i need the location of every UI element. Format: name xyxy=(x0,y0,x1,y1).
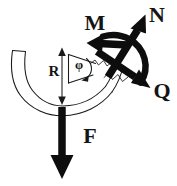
shear-force-shaft xyxy=(97,52,135,78)
wedge-bottom-edge xyxy=(69,75,94,83)
figure-canvas: M N Q F R φ xyxy=(0,0,177,186)
label-moment: M xyxy=(85,10,106,35)
label-normal-force: N xyxy=(149,2,165,27)
label-applied-force: F xyxy=(83,123,96,148)
label-angle: φ xyxy=(75,57,83,72)
free-body-diagram: M N Q F R φ xyxy=(0,0,177,186)
label-radius: R xyxy=(49,63,60,79)
radius-arrowhead-up xyxy=(58,48,66,57)
applied-force-arrowhead xyxy=(51,155,74,179)
applied-force-arrow xyxy=(51,107,74,179)
moment-arrow-shaft xyxy=(99,44,128,46)
radius-arrowhead-down xyxy=(58,97,66,106)
label-shear-force: Q xyxy=(153,78,170,103)
member-end-cap xyxy=(13,51,26,52)
